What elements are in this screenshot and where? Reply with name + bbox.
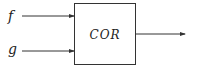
input-f: f xyxy=(7,8,74,24)
input-f-label: f xyxy=(7,8,16,24)
block-diagram: f g COR xyxy=(0,0,197,70)
input-g-label: g xyxy=(8,41,17,57)
cor-block: COR xyxy=(75,4,136,65)
input-g: g xyxy=(8,41,74,57)
cor-block-label: COR xyxy=(89,28,120,42)
